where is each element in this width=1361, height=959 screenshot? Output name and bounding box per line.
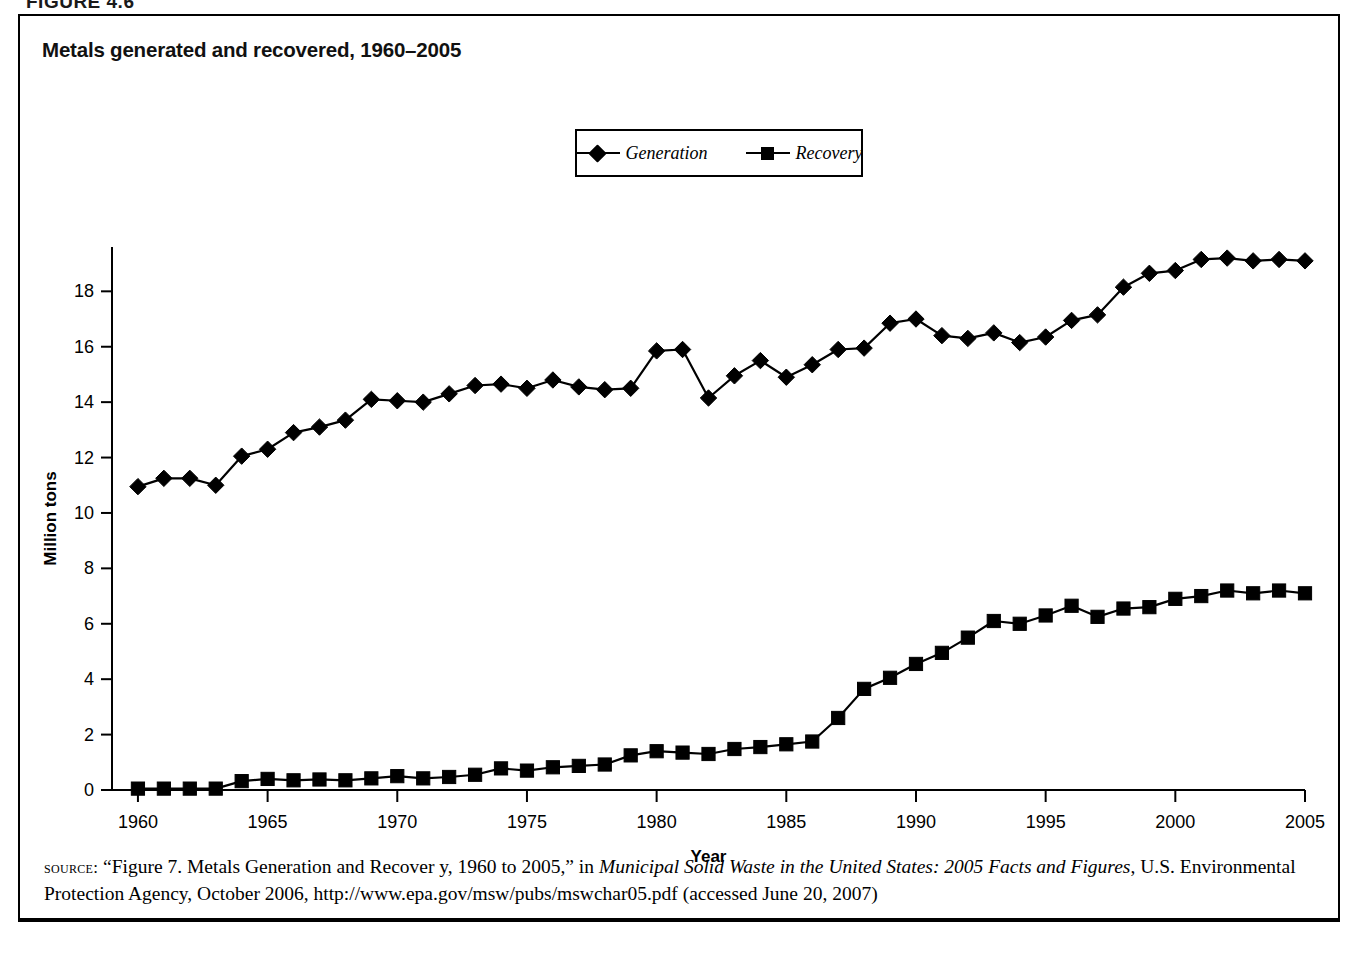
axis-titles: YearMillion tons [41, 471, 727, 866]
series-line-generation [138, 258, 1305, 487]
x-tick-label: 1965 [248, 812, 288, 832]
data-point-marker-generation [130, 478, 146, 494]
data-point-marker-generation [493, 376, 509, 392]
y-axis: 024681012141618 [74, 247, 112, 800]
data-point-marker-recovery [391, 770, 404, 783]
y-tick-label: 6 [84, 614, 94, 634]
y-axis-title: Million tons [41, 471, 60, 565]
data-point-marker-generation [389, 393, 405, 409]
data-point-marker-recovery [494, 762, 507, 775]
y-tick-label: 14 [74, 392, 94, 412]
line-chart-svg: 024681012141618 196019651970197519801985… [20, 16, 1342, 924]
data-point-marker-generation [830, 341, 846, 357]
data-point-marker-recovery [1247, 587, 1260, 600]
data-point-marker-recovery [987, 614, 1000, 627]
data-point-marker-recovery [1039, 609, 1052, 622]
data-point-marker-recovery [624, 749, 637, 762]
data-point-marker-recovery [235, 775, 248, 788]
data-point-marker-recovery [1169, 592, 1182, 605]
data-point-marker-generation [1012, 334, 1028, 350]
data-point-marker-generation [1297, 253, 1313, 269]
y-tick-label: 8 [84, 558, 94, 578]
data-point-marker-generation [752, 352, 768, 368]
data-point-marker-recovery [832, 711, 845, 724]
series-line-recovery [138, 591, 1305, 789]
data-point-marker-recovery [183, 782, 196, 795]
data-point-marker-generation [622, 380, 638, 396]
data-point-marker-generation [1245, 253, 1261, 269]
y-tick-label: 0 [84, 780, 94, 800]
data-point-marker-generation [259, 441, 275, 457]
y-tick-label: 12 [74, 448, 94, 468]
data-point-marker-recovery [339, 774, 352, 787]
data-point-marker-generation [1141, 265, 1157, 281]
data-point-marker-recovery [754, 740, 767, 753]
data-point-marker-recovery [1091, 610, 1104, 623]
data-point-marker-generation [1063, 312, 1079, 328]
data-point-marker-generation [415, 394, 431, 410]
y-tick-label: 4 [84, 669, 94, 689]
x-tick-label: 1975 [507, 812, 547, 832]
data-point-marker-recovery [520, 764, 533, 777]
data-point-marker-recovery [1298, 587, 1311, 600]
data-point-marker-recovery [1065, 599, 1078, 612]
data-point-marker-generation [1167, 262, 1183, 278]
data-point-marker-recovery [417, 772, 430, 785]
data-point-marker-recovery [806, 735, 819, 748]
data-point-marker-generation [311, 419, 327, 435]
data-point-marker-recovery [443, 770, 456, 783]
data-series-group [130, 250, 1313, 795]
data-point-marker-generation [1271, 251, 1287, 267]
data-point-marker-generation [986, 325, 1002, 341]
data-point-marker-generation [156, 470, 172, 486]
data-point-marker-recovery [157, 782, 170, 795]
plot-area: 024681012141618 196019651970197519801985… [20, 16, 1342, 924]
data-point-marker-recovery [1143, 601, 1156, 614]
data-point-marker-recovery [468, 768, 481, 781]
data-point-marker-recovery [1195, 589, 1208, 602]
data-point-marker-recovery [909, 657, 922, 670]
data-point-marker-recovery [313, 773, 326, 786]
x-tick-label: 1970 [377, 812, 417, 832]
data-point-marker-recovery [1117, 602, 1130, 615]
data-point-marker-generation [674, 341, 690, 357]
data-point-marker-recovery [935, 646, 948, 659]
data-point-marker-recovery [883, 671, 896, 684]
data-point-marker-recovery [858, 682, 871, 695]
x-tick-label: 1980 [637, 812, 677, 832]
data-point-marker-generation [597, 381, 613, 397]
data-point-marker-recovery [676, 746, 689, 759]
data-point-marker-generation [182, 470, 198, 486]
x-tick-label: 1960 [118, 812, 158, 832]
data-point-marker-generation [960, 330, 976, 346]
y-tick-label: 16 [74, 337, 94, 357]
figure-number-label: FIGURE 4.6 [26, 0, 134, 13]
data-point-marker-recovery [598, 758, 611, 771]
data-point-marker-generation [467, 377, 483, 393]
data-point-marker-generation [571, 379, 587, 395]
data-point-marker-generation [934, 327, 950, 343]
data-point-marker-generation [778, 369, 794, 385]
source-text-part1: “Figure 7. Metals Generation and Recover… [98, 856, 599, 877]
y-tick-label: 10 [74, 503, 94, 523]
data-point-marker-recovery [780, 738, 793, 751]
data-point-marker-generation [1219, 250, 1235, 266]
data-point-marker-recovery [209, 782, 222, 795]
source-publication-title: Municipal Solid Waste in the United Stat… [599, 856, 1131, 877]
data-point-marker-recovery [728, 742, 741, 755]
x-tick-label: 2005 [1285, 812, 1325, 832]
data-point-marker-recovery [702, 747, 715, 760]
data-point-marker-recovery [1272, 584, 1285, 597]
data-point-marker-generation [441, 386, 457, 402]
data-point-marker-recovery [365, 772, 378, 785]
x-tick-label: 1990 [896, 812, 936, 832]
data-point-marker-generation [519, 380, 535, 396]
data-point-marker-generation [908, 311, 924, 327]
data-point-marker-recovery [650, 745, 663, 758]
data-point-marker-recovery [261, 772, 274, 785]
x-tick-label: 2000 [1155, 812, 1195, 832]
data-point-marker-recovery [572, 759, 585, 772]
data-point-marker-generation [545, 372, 561, 388]
data-point-marker-recovery [546, 761, 559, 774]
y-tick-label: 2 [84, 725, 94, 745]
